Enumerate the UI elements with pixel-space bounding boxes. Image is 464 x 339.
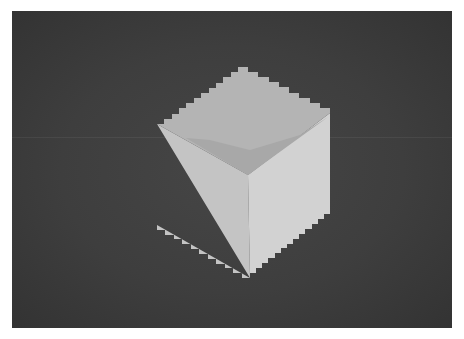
- cube-graphic: [0, 0, 464, 339]
- cube: [157, 67, 330, 278]
